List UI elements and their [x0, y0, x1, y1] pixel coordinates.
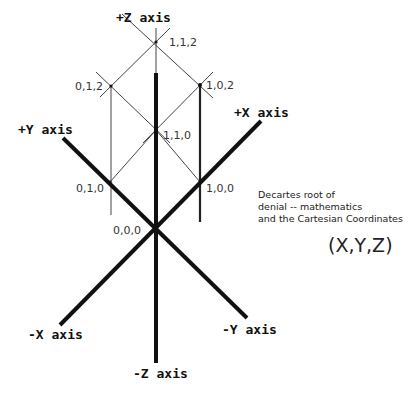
point-label-100: 1,0,0 — [206, 182, 234, 195]
point-label-112: 1,1,2 — [169, 36, 197, 49]
cartesian-diagram: +Z axis -Z axis +X axis -X axis +Y axis … — [0, 0, 416, 393]
caption-line-1: Decartes root of — [258, 189, 336, 200]
coordinate-tuple: (X,Y,Z) — [328, 234, 393, 256]
main-axes — [60, 73, 261, 363]
grid-line — [110, 130, 156, 182]
neg-y-axis-label: -Y axis — [222, 322, 277, 337]
grid-line — [96, 72, 170, 143]
pos-y-axis-label: +Y axis — [18, 122, 73, 137]
neg-x-axis-label: -X axis — [28, 327, 83, 342]
neg-z-axis-label: -Z axis — [133, 366, 188, 381]
caption-line-3: and the Cartesian Coordinates — [258, 213, 403, 224]
caption-line-2: denial -- mathematics — [258, 201, 362, 212]
x-axis-line — [60, 121, 261, 325]
pos-x-axis-label: +X axis — [234, 105, 289, 120]
point-label-012: 0,1,2 — [75, 80, 103, 93]
point-label-102: 1,0,2 — [206, 79, 234, 92]
point-label-000: 0,0,0 — [113, 224, 141, 237]
pos-z-axis-label: +Z axis — [116, 10, 171, 25]
diagram-canvas: +Z axis -Z axis +X axis -X axis +Y axis … — [0, 0, 416, 393]
point-label-110: 1,1,0 — [163, 129, 191, 142]
point-label-010: 0,1,0 — [76, 182, 104, 195]
